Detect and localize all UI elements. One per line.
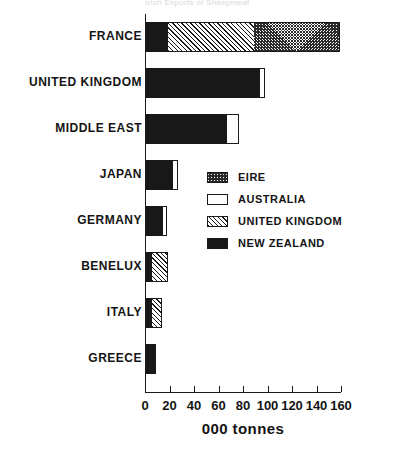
- bar-japan: [145, 160, 178, 190]
- legend-label: AUSTRALIA: [238, 193, 306, 205]
- legend-swatch-icon: [207, 238, 228, 249]
- legend-item: UNITED KINGDOM: [207, 212, 342, 230]
- bar-segment-new-zealand: [145, 252, 152, 282]
- x-axis-line: [145, 392, 341, 393]
- bar-segment-new-zealand: [145, 68, 260, 98]
- category-label: ITALY: [107, 305, 142, 319]
- bar-segment-united-kingdom: [152, 252, 168, 282]
- bar-segment-australia: [173, 160, 178, 190]
- bar-united-kingdom: [145, 68, 265, 98]
- x-tick-120: [292, 386, 293, 392]
- chart-title: Irish Exports of Sheepmeat: [0, 0, 395, 7]
- bar-segment-new-zealand: [145, 22, 168, 52]
- x-tick-label-60: 60: [211, 398, 225, 413]
- x-tick-label-120: 120: [281, 398, 303, 413]
- bar-segment-united-kingdom: [168, 22, 254, 52]
- x-tick-label-40: 40: [187, 398, 201, 413]
- x-tick-0: [145, 386, 146, 392]
- x-tick-label-0: 0: [141, 398, 148, 413]
- bar-segment-australia: [260, 68, 265, 98]
- bar-middle-east: [145, 114, 239, 144]
- x-tick-140: [317, 386, 318, 392]
- category-label: UNITED KINGDOM: [29, 75, 142, 89]
- legend-swatch-icon: [207, 194, 228, 205]
- bar-segment-australia: [227, 114, 239, 144]
- legend-swatch-icon: [207, 172, 228, 183]
- bar-france: [145, 22, 340, 52]
- x-tick-label-100: 100: [257, 398, 279, 413]
- x-tick-20: [170, 386, 171, 392]
- bar-segment-new-zealand: [145, 298, 152, 328]
- x-tick-label-160: 160: [330, 398, 352, 413]
- category-label: BENELUX: [81, 259, 142, 273]
- bar-chart: Irish Exports of Sheepmeat 0204060801001…: [0, 0, 395, 451]
- bar-segment-new-zealand: [145, 160, 173, 190]
- x-tick-60: [219, 386, 220, 392]
- legend-item: AUSTRALIA: [207, 190, 342, 208]
- bar-segment-new-zealand: [145, 344, 156, 374]
- x-tick-label-80: 80: [236, 398, 250, 413]
- bar-italy: [145, 298, 162, 328]
- x-tick-label-140: 140: [306, 398, 328, 413]
- legend-swatch-icon: [207, 216, 228, 227]
- category-label: GREECE: [88, 351, 142, 365]
- bar-segment-united-kingdom: [152, 298, 162, 328]
- category-label: GERMANY: [77, 213, 142, 227]
- legend-item: NEW ZEALAND: [207, 234, 342, 252]
- x-axis-title: 000 tonnes: [145, 420, 341, 437]
- x-tick-100: [268, 386, 269, 392]
- bar-segment-eire: [254, 22, 340, 52]
- legend-label: UNITED KINGDOM: [238, 215, 342, 227]
- bar-benelux: [145, 252, 168, 282]
- bar-segment-new-zealand: [145, 114, 227, 144]
- x-tick-160: [341, 386, 342, 392]
- x-tick-label-20: 20: [162, 398, 176, 413]
- legend-item: EIRE: [207, 168, 342, 186]
- x-tick-80: [243, 386, 244, 392]
- bar-segment-australia: [163, 206, 167, 236]
- legend-label: NEW ZEALAND: [238, 237, 325, 249]
- x-tick-40: [194, 386, 195, 392]
- category-label: MIDDLE EAST: [55, 121, 142, 135]
- bar-segment-new-zealand: [145, 206, 163, 236]
- chart-legend: EIREAUSTRALIAUNITED KINGDOMNEW ZEALAND: [207, 168, 342, 256]
- bar-greece: [145, 344, 156, 374]
- category-label: JAPAN: [100, 167, 142, 181]
- legend-label: EIRE: [238, 171, 266, 183]
- category-label: FRANCE: [89, 29, 142, 43]
- bar-germany: [145, 206, 167, 236]
